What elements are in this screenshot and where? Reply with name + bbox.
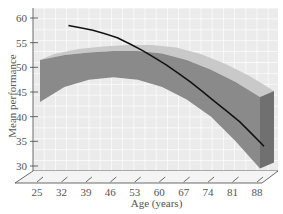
y-tick-label: 30 [16, 160, 28, 172]
y-tick-label: 60 [16, 12, 28, 24]
y-axis-label: Mean performance [6, 46, 18, 146]
band-side-face [260, 91, 274, 169]
x-axis-label: Age (years) [0, 197, 283, 209]
chart-canvas: 3035404550556025323946536067748188 [0, 0, 283, 214]
